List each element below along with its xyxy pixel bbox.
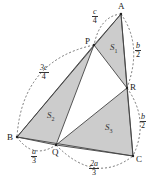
region-s1-label: S1 xyxy=(110,42,118,54)
vertex-q-label: Q xyxy=(52,148,59,157)
region-s3-label: S3 xyxy=(105,122,113,134)
vertex-p-label: P xyxy=(85,37,90,46)
vertex-c-label: C xyxy=(136,155,142,164)
vertex-r-label: R xyxy=(130,83,136,92)
vertex-a-label: A xyxy=(118,2,125,11)
segment-rc-label: b2 xyxy=(140,113,146,130)
segment-qc-label: 2a3 xyxy=(89,160,99,177)
segment-ar-label: b2 xyxy=(135,42,141,59)
triangle-diagram: A P R B Q C S1 S2 S3 c4 3c4 b2 b2 a3 2a3 xyxy=(0,0,153,179)
region-s2-label: S2 xyxy=(47,110,55,122)
segment-ap-label: c4 xyxy=(92,8,98,25)
vertex-b-label: B xyxy=(7,133,13,142)
segment-pb-label: 3c4 xyxy=(39,64,49,81)
segment-bq-label: a3 xyxy=(31,148,37,165)
